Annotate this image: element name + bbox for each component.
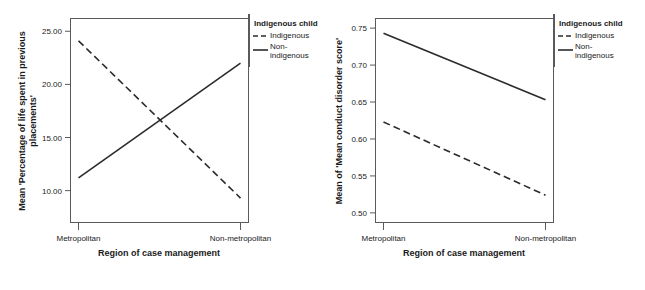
y-tick-label: 0.55 <box>351 172 367 181</box>
x-category-label-non-metropolitan: Non-metropolitan <box>515 234 576 243</box>
chart-panel-left: 25.00 20.00 15.00 10.00 Mean 'Percentage… <box>0 0 322 290</box>
y-tick-label: 0.50 <box>351 209 367 218</box>
x-category-label-metropolitan: Metropolitan <box>56 234 100 243</box>
y-axis-title-line1: Mean 'Percentage of life spent in previo… <box>17 31 27 211</box>
y-tick-label: 20.00 <box>42 80 63 89</box>
chart-panel-right: 0.75 0.70 0.65 0.60 0.55 0.50 Mean of 'M… <box>322 0 644 290</box>
y-axis-ticks <box>65 31 71 190</box>
y-axis-title: Mean 'Percentage of life spent in previo… <box>17 31 38 211</box>
x-axis-title: Region of case management <box>98 248 220 258</box>
series-line-non-indigenous <box>79 63 241 178</box>
x-axis-ticks <box>79 223 241 231</box>
y-tick-label: 10.00 <box>42 187 63 196</box>
legend-title: Indigenous child <box>559 19 623 28</box>
y-axis-title: Mean of 'Mean conduct disorder score' <box>334 38 344 204</box>
legend: Indigenous child Indigenous Non- indigen… <box>554 15 623 67</box>
series-line-non-indigenous <box>384 33 546 100</box>
legend-label-indigenous: Indigenous <box>575 31 614 40</box>
y-tick-label: 0.70 <box>351 61 367 70</box>
legend-label-non-indigenous-line2: indigenous <box>575 51 614 60</box>
x-axis-ticks <box>384 223 546 231</box>
legend-label-non-indigenous-line2: indigenous <box>270 51 309 60</box>
x-category-label-non-metropolitan: Non-metropolitan <box>210 234 271 243</box>
legend-title: Indigenous child <box>254 19 318 28</box>
x-axis-title: Region of case management <box>403 248 525 258</box>
series-line-indigenous <box>384 122 546 195</box>
y-tick-label: 0.65 <box>351 98 367 107</box>
legend-divider <box>554 15 555 67</box>
legend-label-non-indigenous-line1: Non- <box>575 42 593 51</box>
legend-divider <box>249 15 250 67</box>
y-tick-label: 0.60 <box>351 135 367 144</box>
line-chart-conduct-disorder: 0.75 0.70 0.65 0.60 0.55 0.50 Mean of 'M… <box>322 0 645 290</box>
y-tick-label: 15.00 <box>42 134 63 143</box>
y-tick-label: 0.75 <box>351 24 367 33</box>
y-axis-title-line2: placements' <box>28 95 38 147</box>
legend: Indigenous child Indigenous Non- indigen… <box>249 15 318 67</box>
legend-label-non-indigenous-line1: Non- <box>270 42 288 51</box>
y-axis-ticks <box>370 28 376 213</box>
line-chart-previous-placements: 25.00 20.00 15.00 10.00 Mean 'Percentage… <box>0 0 322 290</box>
series-line-indigenous <box>79 41 241 198</box>
legend-label-indigenous: Indigenous <box>270 31 309 40</box>
x-category-label-metropolitan: Metropolitan <box>361 234 405 243</box>
plot-frame <box>376 19 554 223</box>
y-tick-label: 25.00 <box>42 27 63 36</box>
